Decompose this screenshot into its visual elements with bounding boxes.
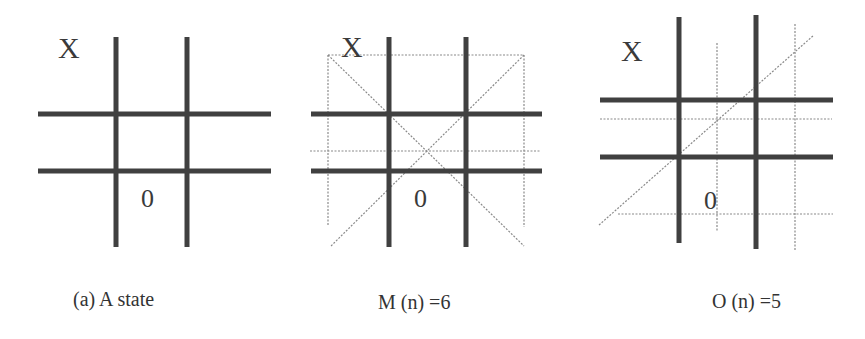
panel-o-x-mark: X — [621, 36, 643, 66]
panel-a-caption: (a) A state — [73, 289, 154, 309]
panel-a-o-mark: 0 — [141, 186, 154, 212]
panel-m-o-mark: 0 — [414, 186, 427, 212]
panel-a-x-mark: X — [58, 33, 80, 63]
panel-m-board — [311, 37, 542, 247]
panel-o-o-mark: 0 — [704, 188, 717, 214]
panel-o-caption: O (n) =5 — [712, 291, 781, 311]
panel-m-x-mark: X — [341, 32, 363, 62]
panel-m-caption: M (n) =6 — [378, 292, 450, 312]
panel-a-board — [38, 37, 271, 247]
panel-m-lines — [310, 55, 541, 247]
